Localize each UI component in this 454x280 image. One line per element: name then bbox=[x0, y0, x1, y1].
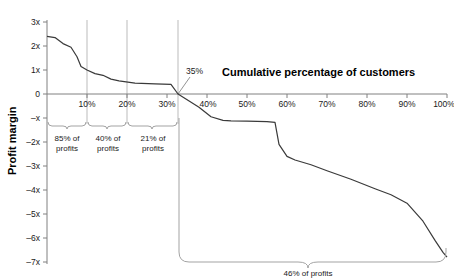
x-tick-label-70: 70% bbox=[318, 99, 335, 109]
x-tick-label-50: 50% bbox=[238, 99, 255, 109]
profit-brace-2 bbox=[88, 122, 126, 129]
x-tick-marks bbox=[87, 94, 447, 98]
y-tick-label-0: 0 bbox=[35, 89, 40, 99]
y-tick-label-minus-3x: –3x bbox=[26, 161, 40, 171]
y-tick-label-1x: 1x bbox=[31, 65, 41, 75]
y-axis-title: Profit margin bbox=[6, 106, 18, 175]
y-tick-label-3x: 3x bbox=[31, 17, 41, 27]
y-tick-marks bbox=[43, 22, 47, 262]
profit-bracket-2-line2: profits bbox=[97, 144, 119, 153]
y-tick-label-minus-2x: –2x bbox=[26, 137, 40, 147]
x-tick-label-60: 60% bbox=[278, 99, 295, 109]
whale-curve-chart: 3x 2x 1x 0 –x –2x –3x –4x –5x –6x –7x Pr… bbox=[0, 0, 454, 280]
x-tick-label-90: 90% bbox=[398, 99, 415, 109]
x-tick-label-20: 20% bbox=[118, 99, 135, 109]
profit-brace-3 bbox=[128, 122, 177, 129]
profit-bracket-1-line2: profits bbox=[56, 144, 78, 153]
y-tick-label-2x: 2x bbox=[31, 41, 41, 51]
loss-bracket-label: 46% of profits bbox=[284, 269, 333, 278]
profit-brace-1 bbox=[48, 122, 86, 129]
x-tick-label-40: 40% bbox=[199, 99, 216, 109]
profit-bracket-1-line1: 85% of bbox=[55, 134, 81, 143]
y-tick-label-minus-4x: –4x bbox=[26, 185, 40, 195]
breakeven-leader-line bbox=[178, 77, 190, 94]
x-tick-label-100: 100% bbox=[433, 99, 454, 109]
loss-brace bbox=[179, 118, 446, 268]
x-tick-label-10: 10% bbox=[78, 99, 95, 109]
y-tick-label-minus-5x: –5x bbox=[26, 209, 40, 219]
x-tick-label-80: 80% bbox=[358, 99, 375, 109]
profit-bracket-3-line1: 21% of bbox=[141, 134, 167, 143]
chart-page: 3x 2x 1x 0 –x –2x –3x –4x –5x –6x –7x Pr… bbox=[0, 0, 454, 280]
chart-title: Cumulative percentage of customers bbox=[222, 66, 415, 78]
profit-bracket-3-line2: profits bbox=[142, 144, 164, 153]
breakeven-label: 35% bbox=[186, 66, 203, 76]
profit-bracket-2-line1: 40% of bbox=[96, 134, 122, 143]
x-tick-label-30: 30% bbox=[158, 99, 175, 109]
y-tick-label-minus-7x: –7x bbox=[26, 257, 40, 267]
y-tick-label-minus-6x: –6x bbox=[26, 233, 40, 243]
y-tick-label-minus-x: –x bbox=[31, 113, 41, 123]
